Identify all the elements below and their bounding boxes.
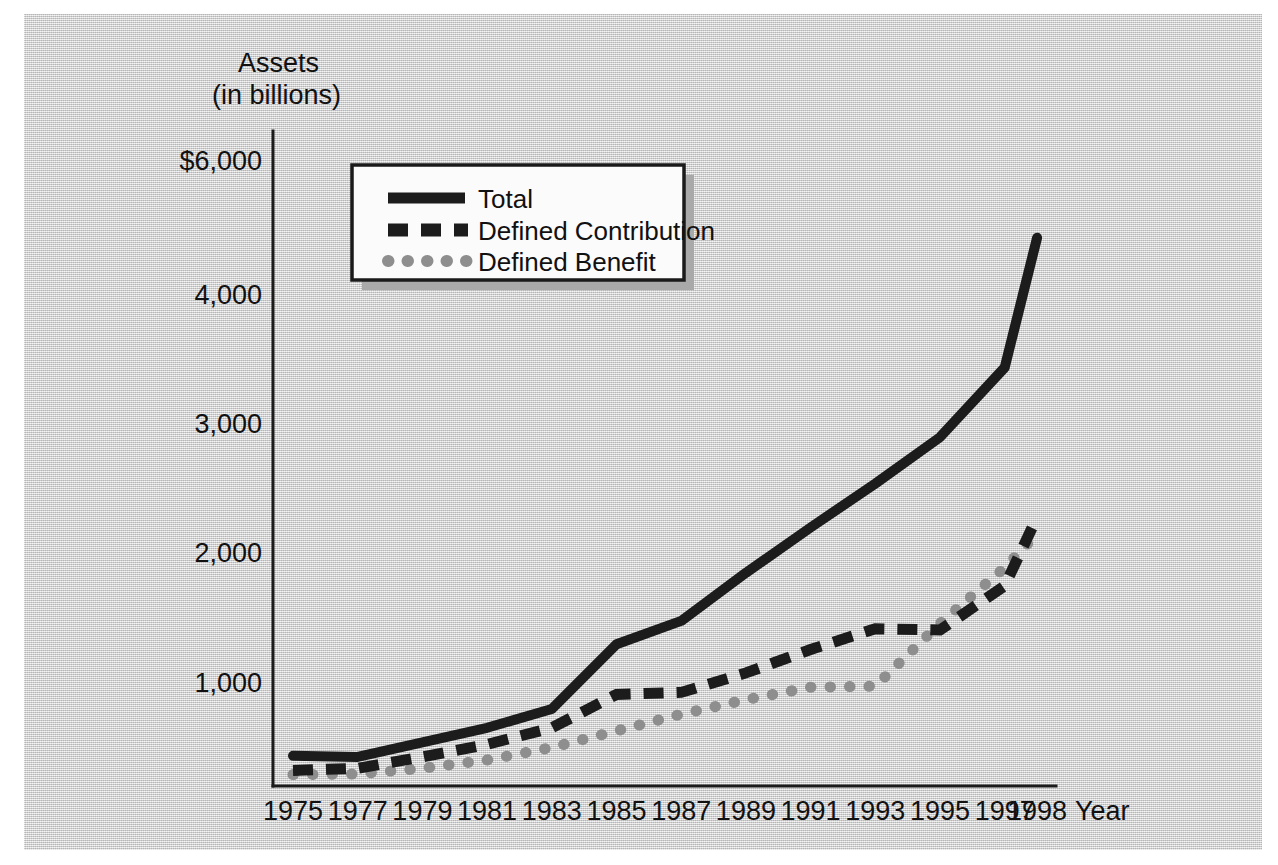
x-axis-tick-label: 1985 — [586, 796, 646, 826]
x-axis-tick-label: 1995 — [910, 796, 970, 826]
x-axis-title: Year — [1075, 796, 1130, 826]
x-axis-tick-label: 1991 — [781, 796, 841, 826]
legend-label-total: Total — [478, 184, 533, 214]
series-line-defined-benefit — [293, 534, 1037, 775]
x-axis-tick-label: 1987 — [651, 796, 711, 826]
legend: Total Defined Contribution Defined Benef… — [352, 165, 715, 290]
chart-page: Assets (in billions) $6,0004,0003,0002,0… — [0, 0, 1278, 865]
y-axis-tick-label: 3,000 — [194, 409, 262, 439]
assets-line-chart: Assets (in billions) $6,0004,0003,0002,0… — [0, 0, 1278, 865]
x-axis-tick-label: 1998 — [1007, 796, 1067, 826]
x-axis-tick-label: 1993 — [845, 796, 905, 826]
x-axis-tick-label: 1989 — [716, 796, 776, 826]
series-line-defined-contribution — [293, 517, 1037, 770]
series-line-total — [293, 238, 1037, 757]
y-axis-tick-label: 2,000 — [194, 538, 262, 568]
x-axis-tick-label: 1977 — [328, 796, 388, 826]
x-axis-tick-label: 1981 — [457, 796, 517, 826]
x-axis-tick-label: 1983 — [522, 796, 582, 826]
y-axis-tick-label: $6,000 — [179, 146, 262, 176]
y-axis-title-line2: (in billions) — [212, 80, 341, 110]
y-axis-tick-labels: $6,0004,0003,0002,0001,000 — [179, 146, 262, 698]
x-axis-tick-label: 1975 — [263, 796, 323, 826]
x-axis-tick-labels: 1975197719791981198319851987198919911993… — [263, 796, 1067, 826]
legend-label-defined-contribution: Defined Contribution — [478, 216, 715, 246]
y-axis-title-line1: Assets — [238, 48, 319, 78]
x-axis-tick-label: 1979 — [392, 796, 452, 826]
y-axis-tick-label: 4,000 — [194, 280, 262, 310]
legend-label-defined-benefit: Defined Benefit — [478, 247, 657, 277]
y-axis-tick-label: 1,000 — [194, 668, 262, 698]
